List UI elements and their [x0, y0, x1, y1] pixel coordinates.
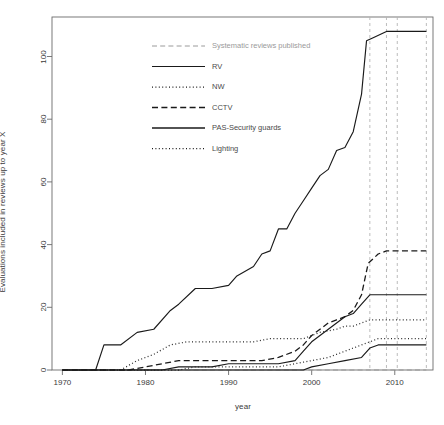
- legend-label-1: RV: [212, 62, 222, 71]
- chart-root: Evaluations included in reviews up to ye…: [0, 0, 444, 425]
- plot-frame: [52, 17, 433, 370]
- legend-label-2: NW: [212, 82, 225, 91]
- y-axis-title: Evaluations included in reviews up to ye…: [0, 132, 7, 293]
- y-tick-label-80: 80: [39, 115, 48, 124]
- series-line-baseline-flat: [62, 345, 426, 370]
- legend-label-4: PAS-Security guards: [212, 123, 281, 132]
- x-tick-label-2010: 2010: [386, 378, 404, 387]
- series-line-cctv: [62, 251, 426, 370]
- series-line-pas-security-guards: [62, 295, 426, 370]
- data-series-group: [62, 31, 426, 370]
- x-tick-label-2000: 2000: [303, 378, 321, 387]
- x-tick-label-1970: 1970: [53, 378, 71, 387]
- x-axis-title: year: [235, 402, 251, 411]
- legend-label-0: Systematic reviews published: [212, 41, 310, 50]
- vertical-dashed-annotations: [370, 17, 427, 370]
- y-tick-label-100: 100: [39, 50, 48, 63]
- legend-swatches: [152, 46, 205, 149]
- legend-label-5: Lighting: [212, 144, 238, 153]
- y-tick-label-40: 40: [39, 240, 48, 249]
- series-line-lighting: [62, 339, 426, 370]
- x-tick-label-1990: 1990: [220, 378, 238, 387]
- y-tick-label-20: 20: [39, 303, 48, 312]
- y-tick-label-60: 60: [39, 177, 48, 186]
- x-tick-label-1980: 1980: [137, 378, 155, 387]
- series-line-rv: [62, 31, 426, 370]
- y-tick-label-0: 0: [39, 368, 48, 372]
- legend-label-3: CCTV: [212, 103, 232, 112]
